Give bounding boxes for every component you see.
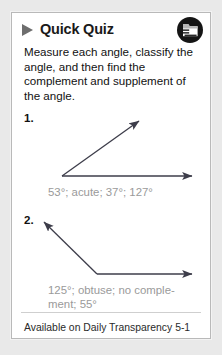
card-header: Quick Quiz	[12, 13, 210, 43]
question-answer: 53°; acute; 37°; 127°	[24, 186, 198, 200]
play-triangle-icon	[22, 24, 33, 36]
quiz-card: Quick Quiz Measure each angle, classify …	[11, 12, 211, 339]
angle-figure-acute	[24, 112, 200, 186]
title-row: Quick Quiz	[22, 21, 200, 37]
footer-text: Available on Daily Transparency 5-1	[12, 313, 210, 333]
instructions-text: Measure each angle, classify the angle, …	[12, 43, 210, 103]
question-number: 2.	[24, 214, 34, 226]
question-answer: 125°; obtuse; no comple-ment; 55°	[24, 284, 198, 311]
quiz-card-inner: Quick Quiz Measure each angle, classify …	[12, 13, 210, 338]
page-root: Quick Quiz Measure each angle, classify …	[0, 0, 222, 355]
angle-figure-obtuse	[24, 214, 200, 284]
question-1: 1. 53°; acute; 37°; 127°	[12, 112, 210, 204]
question-number: 1.	[24, 112, 34, 124]
page-title: Quick Quiz	[40, 21, 114, 37]
question-2: 2. 125°; obtuse; no comple-ment; 55°	[12, 214, 210, 306]
folder-icon[interactable]	[177, 17, 203, 43]
